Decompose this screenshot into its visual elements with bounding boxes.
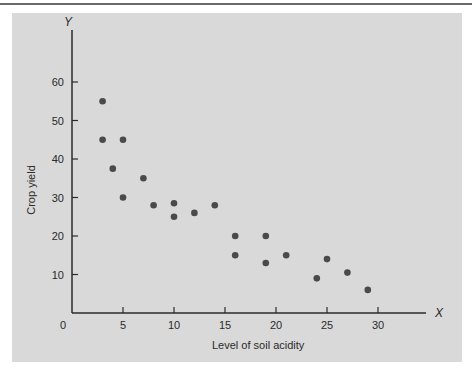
data-point xyxy=(120,136,127,143)
data-point xyxy=(99,98,106,105)
x-tick-label: 30 xyxy=(372,319,384,331)
x-axis-label: Level of soil acidity xyxy=(212,339,305,351)
y-tick-label: 10 xyxy=(52,269,64,281)
data-point xyxy=(110,165,117,172)
y-axis-label: Crop yield xyxy=(25,165,37,215)
y-ticks: 102030405060 xyxy=(52,76,78,281)
y-tick-label: 30 xyxy=(52,192,64,204)
data-point xyxy=(212,202,219,209)
data-points xyxy=(99,98,371,293)
data-point xyxy=(140,175,147,182)
y-axis-letter: Y xyxy=(64,15,73,29)
data-point xyxy=(232,233,239,240)
origin-label: 0 xyxy=(60,319,66,331)
data-point xyxy=(344,269,351,276)
data-point xyxy=(283,252,290,259)
data-point xyxy=(99,136,106,143)
data-point xyxy=(263,233,270,240)
x-tick-label: 25 xyxy=(321,319,333,331)
data-point xyxy=(365,287,372,294)
y-tick-label: 40 xyxy=(52,153,64,165)
x-tick-label: 5 xyxy=(120,319,126,331)
data-point xyxy=(171,213,178,220)
y-tick-label: 20 xyxy=(52,230,64,242)
x-tick-label: 10 xyxy=(168,319,180,331)
data-point xyxy=(191,210,198,217)
data-point xyxy=(263,260,270,267)
x-tick-label: 15 xyxy=(219,319,231,331)
x-tick-label: 20 xyxy=(270,319,282,331)
data-point xyxy=(171,200,178,207)
x-axis-letter: X xyxy=(434,306,444,320)
data-point xyxy=(150,202,157,209)
data-point xyxy=(314,275,321,282)
data-point xyxy=(120,194,127,201)
scatter-chart: Y X 0 51015202530 102030405060 Level of … xyxy=(0,0,472,370)
y-tick-label: 50 xyxy=(52,115,64,127)
x-ticks: 51015202530 xyxy=(120,307,384,331)
data-point xyxy=(232,252,239,259)
y-tick-label: 60 xyxy=(52,76,64,88)
axes: Y X 0 xyxy=(60,15,444,331)
data-point xyxy=(324,256,331,263)
